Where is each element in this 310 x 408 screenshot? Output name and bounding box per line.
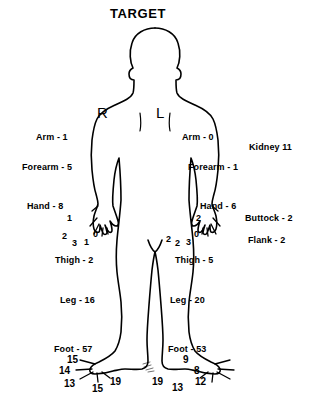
digit-left-hand-middle: 3 bbox=[186, 238, 191, 247]
label-foot-right: Foot - 57 bbox=[54, 345, 92, 354]
label-leg-right: Leg - 16 bbox=[60, 296, 95, 305]
label-kidney: Kidney 11 bbox=[249, 143, 292, 152]
digit-left-hand-little: 2 bbox=[166, 235, 171, 244]
digit-right-hand-index: 2 bbox=[62, 232, 67, 241]
digit-right-hand-middle: 3 bbox=[72, 239, 77, 248]
digit-left-foot-4: 13 bbox=[172, 383, 183, 393]
label-forearm-right: Forearm - 5 bbox=[22, 163, 72, 172]
label-hand-left: Hand - 6 bbox=[200, 202, 236, 211]
digit-right-foot-4: 15 bbox=[92, 384, 103, 394]
digit-left-foot-1: 9 bbox=[183, 355, 189, 365]
digit-right-foot-1: 15 bbox=[67, 355, 78, 365]
digit-right-foot-3: 13 bbox=[64, 379, 75, 389]
side-marker-left: L bbox=[156, 105, 164, 120]
label-thigh-left: Thigh - 5 bbox=[175, 256, 213, 265]
label-arm-right: Arm - 1 bbox=[36, 133, 68, 142]
side-marker-right: R bbox=[97, 105, 108, 120]
label-forearm-left: Forearm - 1 bbox=[188, 163, 238, 172]
digit-left-hand-ring: 2 bbox=[175, 239, 180, 248]
digit-left-hand-thumb: 2 bbox=[196, 214, 201, 223]
label-buttock: Buttock - 2 bbox=[245, 214, 293, 223]
label-thigh-right: Thigh - 2 bbox=[55, 256, 93, 265]
label-flank: Flank - 2 bbox=[248, 236, 285, 245]
digit-right-foot-2: 14 bbox=[59, 366, 70, 376]
digit-left-foot-3: 12 bbox=[195, 377, 206, 387]
label-leg-left: Leg - 20 bbox=[170, 296, 205, 305]
label-hand-right: Hand - 8 bbox=[27, 202, 63, 211]
target-body-diagram: TARGET bbox=[0, 0, 310, 408]
digit-right-foot-5: 19 bbox=[110, 377, 121, 387]
digit-right-hand-little: 0 bbox=[93, 230, 98, 239]
digit-right-hand-ring: 1 bbox=[84, 238, 89, 247]
digit-left-foot-5: 19 bbox=[152, 377, 163, 387]
digit-left-foot-2: 8 bbox=[194, 366, 200, 376]
digit-right-hand-thumb: 1 bbox=[67, 214, 72, 223]
digit-left-hand-index: 0 bbox=[194, 230, 199, 239]
label-foot-left: Foot - 53 bbox=[168, 345, 206, 354]
label-arm-left: Arm - 0 bbox=[182, 133, 214, 142]
